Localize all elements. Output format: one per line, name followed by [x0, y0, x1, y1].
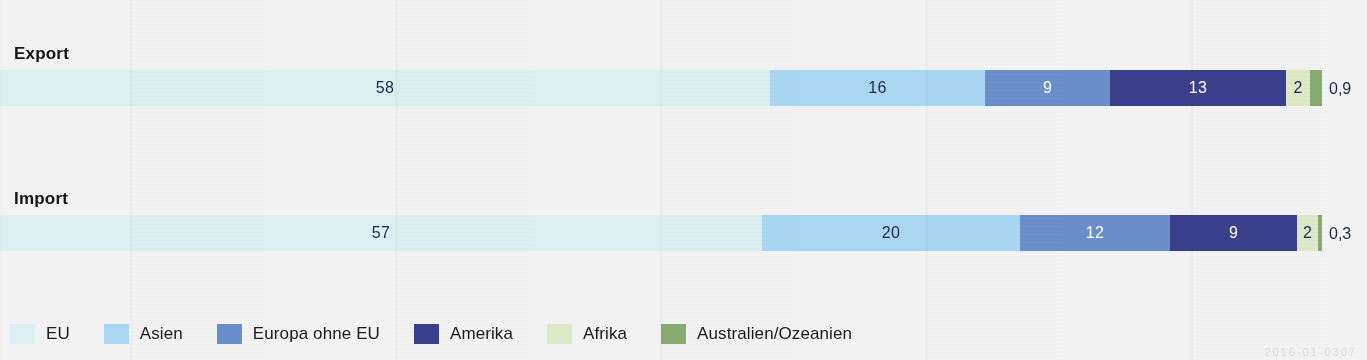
watermark-text: 2016-01-0307: [1264, 346, 1357, 358]
bar-segment: [1310, 70, 1322, 106]
legend-item[interactable]: Europa ohne EU: [217, 324, 380, 344]
bar-segment-value-outside: 0,9: [1329, 81, 1351, 97]
stacked-bar-import: 57201292: [0, 215, 1322, 251]
bar-segment-value: 12: [1086, 225, 1104, 241]
legend-item[interactable]: Afrika: [547, 324, 627, 344]
legend-item[interactable]: Asien: [104, 324, 183, 344]
legend-swatch-icon: [414, 324, 439, 344]
legend-item-label: Europa ohne EU: [253, 324, 380, 344]
bar-segment: 2: [1297, 215, 1318, 251]
chart-plot-area: Export 58169132 Import 57201292 0,90,3: [0, 0, 1367, 360]
bar-segment: 16: [770, 70, 985, 106]
bar-segment: 13: [1110, 70, 1286, 106]
bar-segment-value: 20: [882, 225, 900, 241]
legend-item-label: Amerika: [450, 324, 513, 344]
legend-swatch-icon: [104, 324, 129, 344]
bar-segment-value: 2: [1303, 225, 1312, 241]
legend-swatch-icon: [547, 324, 572, 344]
bar-segment-value: 9: [1229, 225, 1238, 241]
bar-segment-value: 13: [1189, 80, 1207, 96]
bar-segment: 58: [0, 70, 770, 106]
legend-swatch-icon: [10, 324, 35, 344]
bar-segment-value: 58: [376, 80, 394, 96]
bar-segment-value-outside: 0,3: [1329, 226, 1351, 242]
legend-item-label: Asien: [140, 324, 183, 344]
bar-segment: 9: [985, 70, 1110, 106]
bar-segment-value: 57: [372, 225, 390, 241]
legend-item[interactable]: Amerika: [414, 324, 513, 344]
bar-segment-value: 16: [868, 80, 886, 96]
legend-swatch-icon: [661, 324, 686, 344]
bar-segment-value: 2: [1293, 80, 1302, 96]
legend-item[interactable]: EU: [10, 324, 70, 344]
group-label-import: Import: [14, 189, 68, 209]
stacked-bar-export: 58169132: [0, 70, 1322, 106]
legend-item-label: Afrika: [583, 324, 627, 344]
legend-item[interactable]: Australien/Ozeanien: [661, 324, 852, 344]
bar-segment-value: 9: [1043, 80, 1052, 96]
bar-segment: 57: [0, 215, 762, 251]
legend-item-label: EU: [46, 324, 70, 344]
legend-item-label: Australien/Ozeanien: [697, 324, 852, 344]
bar-segment: 12: [1020, 215, 1170, 251]
group-label-export: Export: [14, 44, 69, 64]
legend-swatch-icon: [217, 324, 242, 344]
chart-legend: EUAsienEuropa ohne EUAmerikaAfrikaAustra…: [10, 324, 886, 344]
bar-segment: 2: [1286, 70, 1310, 106]
bar-segment: 20: [762, 215, 1020, 251]
bar-segment: [1318, 215, 1322, 251]
bar-segment: 9: [1170, 215, 1297, 251]
